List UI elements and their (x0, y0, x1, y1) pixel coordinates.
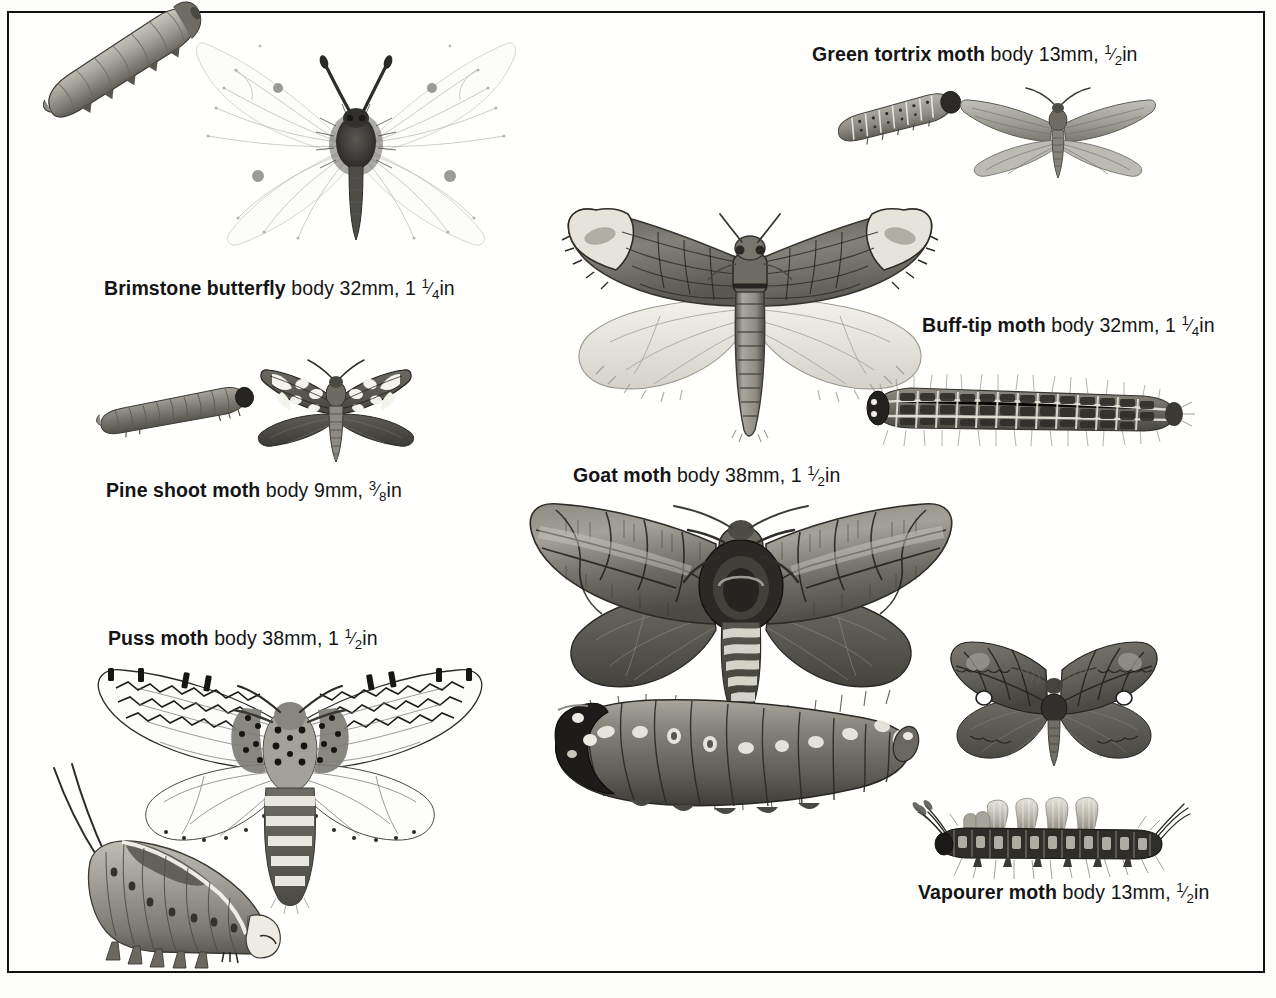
caption-green-tortrix-moth: Green tortrix moth body 13mm, 1⁄2in (812, 42, 1138, 68)
larva-head (246, 915, 280, 958)
tail-filaments (54, 764, 106, 858)
vapourer-adult-illustration (940, 640, 1170, 775)
species-detail-goat-moth: body 38mm, 1 1⁄2in (671, 464, 840, 486)
tail-hair-pencil (1156, 804, 1190, 840)
caption-goat-moth: Goat moth body 38mm, 1 1⁄2in (573, 463, 840, 489)
species-detail-vapourer-moth: body 13mm, 1⁄2in (1057, 881, 1210, 903)
species-name-brimstone-butterfly: Brimstone butterfly (104, 277, 286, 299)
figure-goat-moth-larva (534, 692, 934, 877)
pine-shoot-illustration (88, 366, 408, 472)
caption-brimstone-butterfly: Brimstone butterfly body 32mm, 1 1⁄4in (104, 276, 455, 302)
figure-buff-tip-larva (862, 372, 1190, 458)
figure-green-tortrix-moth (828, 82, 1158, 187)
species-name-vapourer-moth: Vapourer moth (918, 881, 1057, 903)
goat-moth-forewing-left (530, 504, 716, 624)
species-detail-pine-shoot-moth: body 9mm, 3⁄8in (260, 479, 402, 501)
goat-moth-forewing-right (766, 504, 952, 624)
brimstone-butterfly-illustration (20, 20, 540, 270)
species-detail-buff-tip-moth: body 32mm, 1 1⁄4in (1046, 314, 1215, 336)
figure-pine-shoot-moth (88, 366, 408, 472)
pine-shoot-adult (258, 360, 413, 462)
true-legs (222, 952, 238, 963)
caption-buff-tip-moth: Buff-tip moth body 32mm, 1 1⁄4in (922, 313, 1215, 339)
figure-brimstone-butterfly (20, 20, 540, 270)
species-name-buff-tip-moth: Buff-tip moth (922, 314, 1046, 336)
brimstone-caterpillar (33, 0, 216, 132)
figure-vapourer-larva (906, 796, 1196, 886)
species-name-goat-moth: Goat moth (573, 464, 671, 486)
green-tortrix-illustration (828, 82, 1158, 187)
species-name-pine-shoot-moth: Pine shoot moth (106, 479, 260, 501)
green-tortrix-adult (961, 88, 1156, 178)
buff-tip-abdomen (732, 292, 768, 442)
species-name-green-tortrix-moth: Green tortrix moth (812, 43, 985, 65)
goat-moth-larva-illustration (534, 692, 934, 877)
illustration-plate: Brimstone butterfly body 32mm, 1 1⁄4in (0, 0, 1276, 998)
caption-puss-moth: Puss moth body 38mm, 1 1⁄2in (108, 626, 378, 652)
figure-vapourer-moth (940, 640, 1170, 775)
pine-shoot-larva (95, 384, 257, 441)
species-detail-green-tortrix-moth: body 13mm, 1⁄2in (985, 43, 1138, 65)
species-detail-puss-moth: body 38mm, 1 1⁄2in (209, 627, 378, 649)
species-name-puss-moth: Puss moth (108, 627, 209, 649)
figure-puss-moth-larva (28, 730, 328, 980)
brimstone-adult (196, 43, 515, 245)
green-tortrix-larva (835, 90, 966, 149)
buff-tip-larva-illustration (862, 372, 1190, 458)
vapourer-larva-illustration (906, 796, 1196, 886)
puss-larva-illustration (28, 730, 328, 980)
antennae (326, 66, 386, 112)
species-detail-brimstone-butterfly: body 32mm, 1 1⁄4in (286, 277, 455, 299)
caption-pine-shoot-moth: Pine shoot moth body 9mm, 3⁄8in (106, 478, 402, 504)
caption-vapourer-moth: Vapourer moth body 13mm, 1⁄2in (918, 880, 1209, 906)
